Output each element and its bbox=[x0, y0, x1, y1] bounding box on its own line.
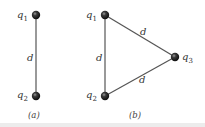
charge-label-q2: q2 bbox=[86, 89, 97, 103]
charge-label-q1: q1 bbox=[86, 9, 97, 23]
panel-caption-a: (a) bbox=[28, 110, 40, 120]
bottom-border bbox=[0, 123, 205, 127]
charge-label-q2: q2 bbox=[17, 89, 28, 103]
distance-label-q2-q3: d bbox=[139, 74, 145, 85]
distance-label-d: d bbox=[27, 52, 33, 63]
distance-label-q1-q2: d bbox=[96, 52, 102, 63]
panel-b: q1 q2 q3 d d d (b) bbox=[86, 9, 193, 120]
distance-label-q1-q3: d bbox=[140, 26, 146, 37]
charge-label-q3: q3 bbox=[182, 51, 193, 65]
charge-q1-icon bbox=[101, 11, 109, 19]
charge-q2-icon bbox=[32, 92, 40, 100]
panel-caption-b: (b) bbox=[129, 110, 141, 120]
panel-a: q1 q2 d (a) bbox=[17, 9, 40, 120]
charge-q1-icon bbox=[32, 11, 40, 19]
charge-label-q1: q1 bbox=[17, 9, 28, 23]
charge-q2-icon bbox=[101, 92, 109, 100]
charge-q3-icon bbox=[171, 53, 179, 61]
two-and-three-charge-diagram: q1 q2 d (a) q1 q2 q3 d d d (b) bbox=[0, 0, 205, 127]
